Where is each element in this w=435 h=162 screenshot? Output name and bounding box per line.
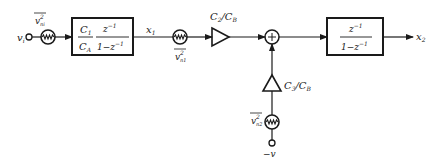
amp-bottom-label: C3/CB [284,80,312,92]
noise-1-label: v2n1 [175,49,186,63]
reference-label: −v [263,149,276,159]
input-label: vi [17,32,25,44]
noise-source-in-icon [41,30,55,44]
block2-tf-num: z−1 [348,22,363,34]
block1-tf-den: 1−z−1 [97,40,124,52]
x2-label: x2 [416,31,426,43]
block1-gain-num: C1 [80,24,91,36]
noise-2-label: v2n2 [251,113,262,127]
block2-tf-den: 1−z−1 [341,40,368,52]
block1-gain-den: CA [79,41,92,53]
input-terminal [26,34,32,40]
noise-in-label: v2ni [35,13,45,27]
summing-junction-icon [265,30,279,44]
x1-label: x1 [146,24,155,36]
gain-amplifier-top-icon [212,28,229,46]
block1-tf-num: z−1 [102,22,117,34]
gain-amplifier-bottom-icon [263,75,281,91]
reference-terminal [269,140,275,146]
noise-source-2-icon [265,115,279,129]
noise-source-1-icon [173,30,187,44]
block-diagram: vi v2ni C1 CA z−1 1−z−1 x1 v2n1 [0,0,435,162]
amp-top-label: C2/CB [210,11,238,23]
